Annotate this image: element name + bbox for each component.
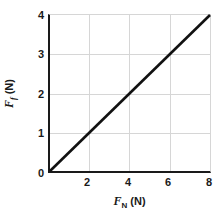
x-axis-title: FN (N) [48,195,211,210]
y-tick-label-0: 0 [38,168,44,179]
y-tick-label-1: 1 [38,128,44,139]
y-axis-unit-text: (N) [3,79,15,94]
x-tick-label-2: 2 [84,177,90,188]
y-axis-unit-space [3,94,15,97]
x-tick-label-8: 8 [206,177,212,188]
series-segment [50,15,210,171]
y-axis-symbol: F [2,100,16,108]
y-axis-subscript: f [10,97,19,100]
data-series-line [50,15,210,171]
y-axis-title: Ff (N) [0,14,22,173]
plot-area [48,14,211,173]
y-tick-label-2: 2 [38,89,44,100]
chart-container: 2 4 6 8 0 1 2 3 4 FN (N) Ff (N) [0,0,224,215]
x-axis-unit-text: (N) [130,195,145,207]
x-tick-label-4: 4 [125,177,131,188]
x-tick-label-6: 6 [165,177,171,188]
y-tick-label-4: 4 [38,10,44,21]
y-tick-label-3: 3 [38,49,44,60]
y-axis-title-rotated: Ff (N) [3,79,18,108]
